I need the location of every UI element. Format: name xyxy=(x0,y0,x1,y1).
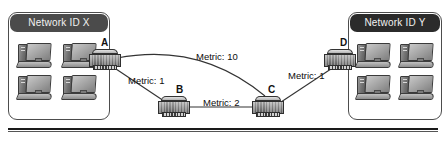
pc-keyboard xyxy=(355,93,393,100)
router-icon-b xyxy=(158,96,190,118)
metric-label-a-c: Metric: 10 xyxy=(196,52,238,62)
router-ports xyxy=(162,112,186,117)
router-label-a: A xyxy=(101,38,108,48)
workstation-icon xyxy=(15,41,53,69)
router-icon-c xyxy=(252,96,284,118)
pc-keyboard xyxy=(61,93,99,100)
pc-keyboard xyxy=(355,61,393,68)
metric-label-a-b: Metric: 1 xyxy=(128,76,164,86)
router-ports xyxy=(93,65,117,70)
router-ports xyxy=(256,112,280,117)
pc-keyboard xyxy=(398,93,436,100)
workstation-icon xyxy=(354,41,392,69)
pc-keyboard xyxy=(16,61,54,68)
router-icon-a xyxy=(89,49,121,71)
router-icon-d xyxy=(324,49,356,71)
metric-label-b-c: Metric: 2 xyxy=(203,98,239,108)
host-grid-y xyxy=(354,41,436,103)
metric-label-c-d: Metric: 1 xyxy=(288,71,324,81)
router-label-b: B xyxy=(176,85,183,95)
router-ports xyxy=(328,65,352,70)
workstation-icon xyxy=(60,73,98,101)
router-label-c: C xyxy=(268,85,275,95)
bottom-rule-secondary xyxy=(8,131,438,132)
router-label-d: D xyxy=(340,38,347,48)
network-label-y: Network ID Y xyxy=(350,14,440,32)
workstation-icon xyxy=(354,73,392,101)
workstation-icon xyxy=(397,41,435,69)
pc-keyboard xyxy=(398,61,436,68)
pc-keyboard xyxy=(16,93,54,100)
workstation-icon xyxy=(15,73,53,101)
network-diagram: Network ID X Network ID Y xyxy=(0,0,446,142)
workstation-icon xyxy=(397,73,435,101)
bottom-rule-primary xyxy=(8,128,438,130)
network-label-x: Network ID X xyxy=(10,14,108,32)
